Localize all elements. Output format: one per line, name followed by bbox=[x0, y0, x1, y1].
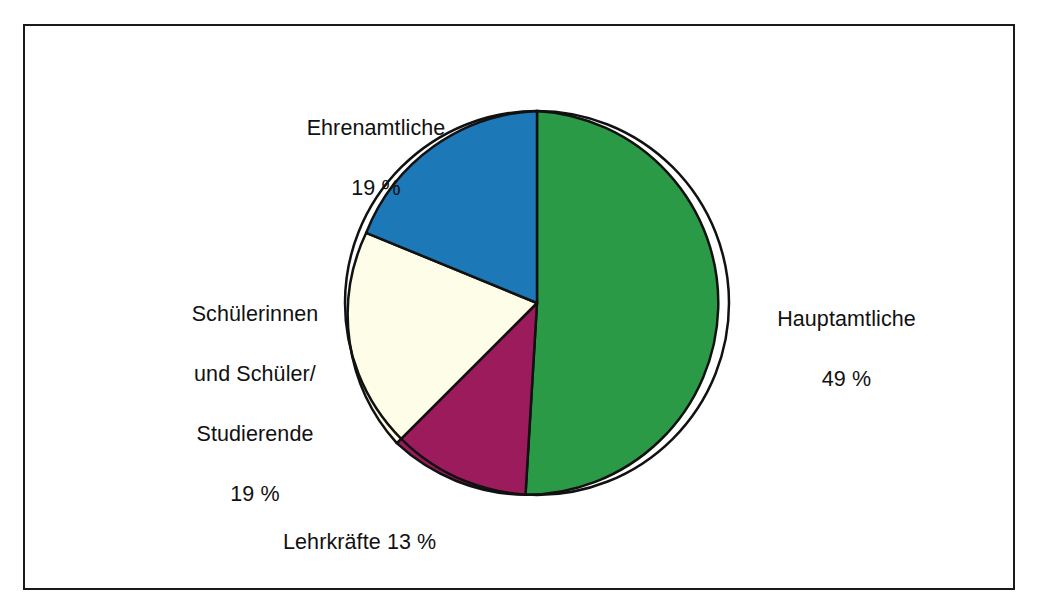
slice-label-hauptamtliche-name: Hauptamtliche bbox=[739, 304, 954, 334]
slice-label-schuelerinnen-line2: und Schüler/ bbox=[155, 359, 355, 389]
slice-label-hauptamtliche-value: 49 % bbox=[739, 364, 954, 394]
slice-label-schuelerinnen-line3: Studierende bbox=[155, 419, 355, 449]
slice-label-schuelerinnen-line1: Schülerinnen bbox=[155, 299, 355, 329]
slice-label-ehrenamtliche: Ehrenamtliche 19 % bbox=[261, 83, 491, 233]
slice-label-ehrenamtliche-value: 19 % bbox=[261, 173, 491, 203]
slice-label-hauptamtliche: Hauptamtliche 49 % bbox=[739, 274, 954, 424]
pie-slice-hauptamtliche[interactable] bbox=[526, 111, 719, 495]
pie-chart-figure: Ehrenamtliche 19 % Hauptamtliche 49 % Sc… bbox=[0, 0, 1038, 612]
slice-label-ehrenamtliche-name: Ehrenamtliche bbox=[261, 113, 491, 143]
chart-frame-border: Ehrenamtliche 19 % Hauptamtliche 49 % Sc… bbox=[23, 24, 1015, 590]
slice-label-lehrkraefte: Lehrkräfte 13 % bbox=[283, 497, 503, 587]
slice-label-lehrkraefte-text: Lehrkräfte 13 % bbox=[283, 527, 503, 557]
